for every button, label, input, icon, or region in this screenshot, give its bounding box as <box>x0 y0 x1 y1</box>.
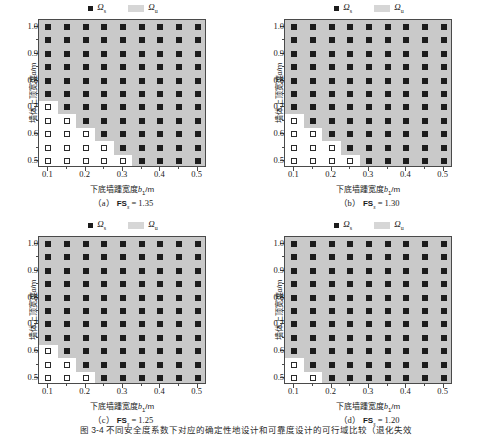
data-point-safe <box>422 348 428 354</box>
data-point-safe <box>157 158 163 164</box>
data-point-safe <box>101 321 107 327</box>
data-point-safe <box>403 91 409 97</box>
data-point-safe <box>329 51 335 57</box>
safe-region-band <box>95 128 206 141</box>
data-point-safe <box>403 37 409 43</box>
y-axis-tick-label: 0.9 <box>12 48 38 57</box>
safe-region-band <box>58 345 206 358</box>
data-point-safe <box>385 78 391 84</box>
data-point-safe <box>120 241 126 247</box>
plot-area <box>38 19 206 167</box>
data-point-safe <box>176 308 182 314</box>
data-point-safe <box>366 241 372 247</box>
data-point-safe <box>422 308 428 314</box>
legend: ΩsΩu <box>246 219 492 232</box>
data-point-safe <box>347 268 353 274</box>
data-point-safe <box>422 295 428 301</box>
data-point-safe <box>291 335 297 341</box>
data-point-safe <box>176 145 182 151</box>
x-axis-tick-label: 0.5 <box>430 387 456 396</box>
data-point-safe <box>120 64 126 70</box>
data-point-safe <box>385 158 391 164</box>
data-point-safe <box>176 268 182 274</box>
data-point-safe <box>64 348 70 354</box>
data-point-safe <box>347 321 353 327</box>
data-point-safe <box>347 295 353 301</box>
data-point-safe <box>385 64 391 70</box>
data-point-safe <box>310 321 316 327</box>
data-point-safe <box>45 268 51 274</box>
data-point-safe <box>157 131 163 137</box>
data-point-unsafe <box>83 375 89 381</box>
data-point-safe <box>347 64 353 70</box>
data-point-safe <box>291 241 297 247</box>
data-point-safe <box>176 321 182 327</box>
data-point-safe <box>120 268 126 274</box>
x-axis-label: 下底墙踵宽度b1/m <box>284 400 452 413</box>
x-axis-minor-tick <box>424 384 425 386</box>
data-point-safe <box>101 241 107 247</box>
data-point-safe <box>329 118 335 124</box>
data-point-safe <box>157 37 163 43</box>
legend: ΩsΩu <box>0 219 246 232</box>
data-point-safe <box>139 104 145 110</box>
data-point-safe <box>366 118 372 124</box>
data-point-safe <box>83 254 89 260</box>
data-point-safe <box>157 362 163 368</box>
x-axis-minor-tick <box>387 384 388 386</box>
data-point-safe <box>120 254 126 260</box>
data-point-safe <box>120 295 126 301</box>
data-point-safe <box>310 24 316 30</box>
data-point-safe <box>83 104 89 110</box>
x-axis-minor-tick <box>103 384 104 386</box>
data-point-safe <box>441 24 447 30</box>
data-point-safe <box>291 348 297 354</box>
data-point-safe <box>441 335 447 341</box>
data-point-safe <box>195 321 201 327</box>
plot-area <box>284 236 452 384</box>
data-point-safe <box>403 78 409 84</box>
y-axis-tick-label: 0.9 <box>258 265 284 274</box>
data-point-safe <box>329 348 335 354</box>
data-point-safe <box>366 254 372 260</box>
x-axis-tick-label: 0.1 <box>34 170 60 179</box>
data-point-safe <box>195 375 201 381</box>
data-point-safe <box>101 268 107 274</box>
data-point-safe <box>441 295 447 301</box>
data-point-safe <box>291 281 297 287</box>
data-point-safe <box>329 335 335 341</box>
data-point-safe <box>291 91 297 97</box>
data-point-safe <box>291 254 297 260</box>
data-point-safe <box>120 308 126 314</box>
y-axis-tick-label: 1.0 <box>258 21 284 30</box>
data-point-safe <box>120 118 126 124</box>
data-point-safe <box>385 335 391 341</box>
data-point-unsafe <box>83 131 89 137</box>
data-point-safe <box>176 348 182 354</box>
data-point-safe <box>157 295 163 301</box>
data-point-safe <box>403 321 409 327</box>
data-point-unsafe <box>310 131 316 137</box>
data-point-safe <box>157 78 163 84</box>
data-point-safe <box>64 254 70 260</box>
y-axis-tick-label: 0.6 <box>258 346 284 355</box>
x-axis-tick-label: 0.5 <box>430 170 456 179</box>
data-point-safe <box>139 24 145 30</box>
data-point-safe <box>195 158 201 164</box>
x-axis-tick-label: 0.4 <box>146 387 172 396</box>
y-axis-minor-tick <box>36 147 38 148</box>
data-point-safe <box>385 24 391 30</box>
plot-area <box>38 236 206 384</box>
data-point-safe <box>139 348 145 354</box>
data-point-unsafe <box>64 145 70 151</box>
x-axis-minor-tick <box>349 167 350 169</box>
data-point-safe <box>403 104 409 110</box>
legend-entry-unsafe: Ωu <box>374 3 404 14</box>
y-axis-tick-label: 1.0 <box>12 21 38 30</box>
data-point-safe <box>403 158 409 164</box>
data-point-safe <box>403 118 409 124</box>
data-point-safe <box>139 321 145 327</box>
data-point-safe <box>120 24 126 30</box>
safe-marker-icon <box>88 223 93 228</box>
data-point-safe <box>64 308 70 314</box>
